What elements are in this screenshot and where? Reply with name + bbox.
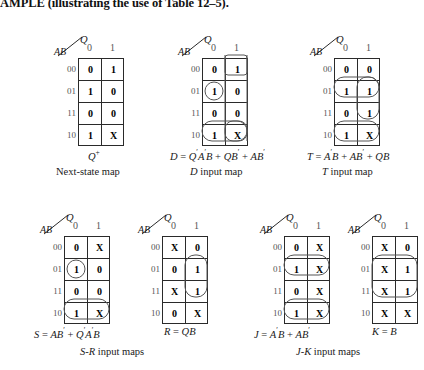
row-header-11: 11 — [183, 102, 200, 124]
row-header-10: 10 — [143, 302, 160, 324]
cell-10-1: X — [358, 125, 381, 147]
cell-01-0: 0 — [163, 259, 186, 281]
kmap-grid: 0 0 1 1 0 1 1 X — [334, 58, 380, 146]
cell-01-0: 1 — [335, 81, 358, 103]
row-header-10: 10 — [45, 302, 62, 324]
row-header-01: 01 — [315, 80, 332, 102]
axis-label-ab: AB — [310, 46, 322, 57]
caption-t-input: T input map — [322, 166, 373, 177]
cell-01-0: 1 — [79, 81, 102, 103]
row-header-11: 11 — [59, 102, 76, 124]
axis-label-ab: AB — [260, 224, 272, 235]
col-header-0: 0 — [334, 42, 357, 53]
equation-s-input: S = AB′ + Q′A′B — [34, 326, 100, 340]
cell-10-0: 1 — [335, 125, 358, 147]
row-header-01: 01 — [183, 80, 200, 102]
row-header-01: 01 — [59, 80, 76, 102]
row-header-10: 10 — [265, 302, 282, 324]
row-header-00: 00 — [143, 236, 160, 258]
kmap-grid: X 0 X 1 X 1 X X — [372, 236, 418, 324]
cell-11-1: 0 — [88, 281, 111, 303]
caption-sr-maps: S-R input maps — [80, 346, 144, 357]
cell-00-1: 0 — [358, 59, 381, 81]
cell-11-1: 1 — [186, 281, 209, 303]
row-header-00: 00 — [315, 58, 332, 80]
row-header-01: 01 — [265, 258, 282, 280]
cell-11-0: X — [373, 281, 396, 303]
cell-11-0: X — [163, 281, 186, 303]
cell-01-0: 1 — [285, 259, 308, 281]
cell-10-1: X — [102, 125, 125, 147]
row-header-00: 00 — [353, 236, 370, 258]
cell-11-1: 1 — [396, 281, 419, 303]
row-header-11: 11 — [315, 102, 332, 124]
row-header-11: 11 — [45, 280, 62, 302]
cell-11-0: 0 — [79, 103, 102, 125]
cell-00-0: 0 — [65, 237, 88, 259]
cell-01-1: 1 — [396, 259, 419, 281]
col-header-0: 0 — [64, 220, 87, 231]
cell-10-0: 1 — [203, 125, 226, 147]
cell-10-1: X — [88, 303, 111, 325]
axis-label-ab: AB — [138, 224, 150, 235]
row-header-01: 01 — [45, 258, 62, 280]
row-header-10: 10 — [315, 124, 332, 146]
row-header-11: 11 — [265, 280, 282, 302]
kmap-grid: 0 X 1 0 0 0 1 X — [64, 236, 110, 324]
cell-10-0: 0 — [163, 303, 186, 325]
col-header-0: 0 — [372, 220, 395, 231]
row-header-00: 00 — [45, 236, 62, 258]
cell-10-1: X — [226, 125, 249, 147]
cell-10-1: X — [186, 303, 209, 325]
cell-10-0: 1 — [65, 303, 88, 325]
row-header-10: 10 — [353, 302, 370, 324]
kmap-grid: 0 X 1 X 0 X 1 X — [284, 236, 330, 324]
cell-10-1: X — [396, 303, 419, 325]
col-header-1: 1 — [185, 220, 208, 231]
caption-d-input: D input map — [190, 166, 243, 177]
row-header-11: 11 — [143, 280, 160, 302]
cell-01-1: 0 — [102, 81, 125, 103]
cell-10-1: X — [308, 303, 331, 325]
cell-10-0: 1 — [285, 303, 308, 325]
cell-00-1: 1 — [102, 59, 125, 81]
col-header-0: 0 — [284, 220, 307, 231]
cell-10-0: X — [373, 303, 396, 325]
row-header-01: 01 — [143, 258, 160, 280]
col-header-0: 0 — [202, 42, 225, 53]
cell-00-0: 0 — [335, 59, 358, 81]
figure-page: AMPLE (illustrating the use of Table 12–… — [0, 0, 424, 370]
row-header-10: 10 — [59, 124, 76, 146]
cell-11-1: 0 — [226, 103, 249, 125]
axis-label-ab: AB — [348, 224, 360, 235]
cell-01-1: 1 — [358, 81, 381, 103]
kmap-grid: 0 1 1 0 0 0 1 X — [78, 58, 124, 146]
col-header-1: 1 — [357, 42, 380, 53]
cell-00-1: X — [88, 237, 111, 259]
cell-00-0: X — [373, 237, 396, 259]
col-header-1: 1 — [307, 220, 330, 231]
kmap-grid: X 0 0 1 X 1 0 X — [162, 236, 208, 324]
cell-00-0: 0 — [79, 59, 102, 81]
cell-00-1: 1 — [226, 59, 249, 81]
row-header-11: 11 — [353, 280, 370, 302]
axis-label-ab: AB — [178, 46, 190, 57]
cell-01-1: X — [308, 259, 331, 281]
cell-00-0: 0 — [203, 59, 226, 81]
cell-00-0: X — [163, 237, 186, 259]
page-title: AMPLE (illustrating the use of Table 12–… — [0, 0, 229, 11]
col-header-1: 1 — [101, 42, 124, 53]
row-header-00: 00 — [59, 58, 76, 80]
cell-10-0: 1 — [79, 125, 102, 147]
equation-next-state: Q+ — [88, 148, 100, 162]
cell-01-0: X — [373, 259, 396, 281]
row-header-00: 00 — [265, 236, 282, 258]
cell-00-1: X — [308, 237, 331, 259]
row-header-00: 00 — [183, 58, 200, 80]
cell-11-0: 0 — [203, 103, 226, 125]
cell-00-0: 0 — [285, 237, 308, 259]
cell-00-1: 0 — [186, 237, 209, 259]
cell-00-1: 0 — [396, 237, 419, 259]
cell-11-0: 0 — [335, 103, 358, 125]
cell-01-1: 0 — [88, 259, 111, 281]
